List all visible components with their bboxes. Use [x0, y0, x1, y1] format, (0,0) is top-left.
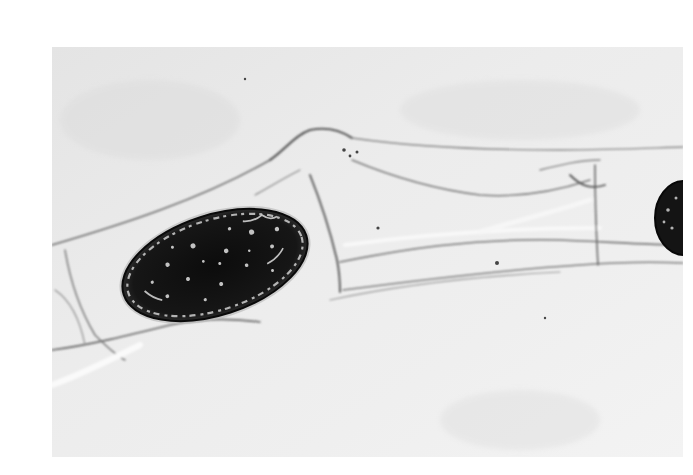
micrograph-photo [52, 47, 683, 457]
page [0, 0, 693, 475]
micrograph-svg [52, 47, 683, 457]
